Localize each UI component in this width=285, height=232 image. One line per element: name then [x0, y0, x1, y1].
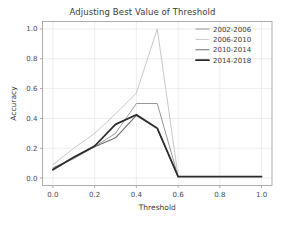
series-line-2014-2018 — [53, 115, 262, 177]
x-tick-label: 0.0 — [47, 191, 58, 199]
chart-figure: Adjusting Best Value of Threshold 0.00.2… — [0, 0, 285, 232]
series-line-2010-2014 — [53, 115, 262, 176]
legend-label-2002-2006[interactable]: 2002-2006 — [213, 26, 252, 34]
y-tick-label: 0.6 — [26, 85, 38, 93]
y-axis-title: Accuracy — [9, 86, 18, 121]
x-tick-label: 0.4 — [131, 191, 143, 199]
x-tick-label: 1.0 — [256, 191, 267, 199]
legend-label-2014-2018[interactable]: 2014-2018 — [213, 57, 251, 65]
legend-label-2010-2014[interactable]: 2010-2014 — [213, 46, 252, 54]
x-tick-label: 0.8 — [214, 191, 225, 199]
y-tick-label: 1.0 — [26, 25, 37, 33]
y-tick-label: 0.2 — [26, 145, 37, 153]
y-tick-label: 0.8 — [26, 55, 37, 63]
x-tick-label: 0.6 — [173, 191, 185, 199]
x-axis-title: Threshold — [138, 203, 176, 212]
y-tick-labels: 0.00.20.40.60.81.0 — [26, 25, 38, 182]
legend-label-2006-2010[interactable]: 2006-2010 — [213, 36, 251, 44]
x-tick-label: 0.2 — [89, 191, 100, 199]
x-tick-labels: 0.00.20.40.60.81.0 — [47, 191, 267, 199]
series-line-2002-2006 — [53, 104, 262, 177]
y-tick-label: 0.0 — [26, 175, 37, 183]
plot-area: 0.00.20.40.60.81.0 0.00.20.40.60.81.0 Th… — [0, 0, 285, 232]
y-tick-label: 0.4 — [26, 115, 38, 123]
